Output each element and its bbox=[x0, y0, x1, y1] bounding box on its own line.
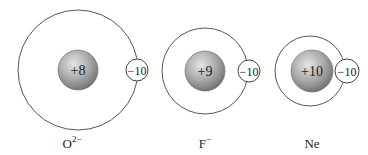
isoelectronic-diagram: +8 −10 O2− +9 −10 F− +10 −10 Ne bbox=[0, 0, 368, 155]
species-fluoride: +9 −10 F− bbox=[162, 28, 260, 151]
species-label-neon: Ne bbox=[304, 136, 319, 151]
species-label-oxide: O2− bbox=[63, 134, 82, 151]
nuclear-charge-oxide: +8 bbox=[71, 63, 86, 78]
electron-charge-fluoride: −10 bbox=[240, 65, 259, 79]
nuclear-charge-fluoride: +9 bbox=[198, 64, 213, 79]
species-neon: +10 −10 Ne bbox=[275, 36, 359, 151]
species-oxide: +8 −10 O2− bbox=[18, 10, 148, 151]
nuclear-charge-neon: +10 bbox=[301, 64, 323, 79]
species-label-fluoride: F− bbox=[199, 134, 211, 151]
electron-charge-neon: −10 bbox=[338, 65, 357, 79]
electron-charge-oxide: −10 bbox=[128, 64, 147, 78]
